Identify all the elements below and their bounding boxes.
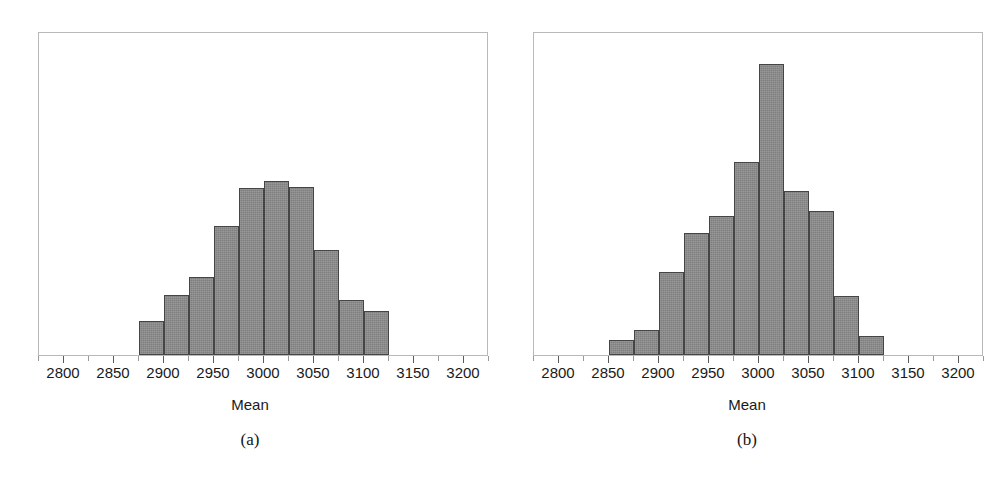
x-axis-tick-major	[708, 356, 709, 363]
histogram-bar	[214, 226, 239, 355]
histogram-bar	[634, 330, 659, 355]
histogram-bar	[289, 187, 314, 355]
x-axis-tick-label: 2850	[96, 364, 129, 381]
bars-container-b	[534, 33, 982, 355]
x-axis-tick-major	[263, 356, 264, 363]
x-axis-tick-major	[908, 356, 909, 363]
histogram-bar	[239, 188, 264, 356]
x-axis-tick-major	[658, 356, 659, 363]
plot-frame-a	[38, 32, 488, 356]
histogram-bar	[784, 191, 809, 355]
x-axis-tick-minor	[833, 356, 834, 361]
x-axis-tick-label: 2900	[146, 364, 179, 381]
x-axis-tick-label: 3150	[396, 364, 429, 381]
x-axis-tick-minor	[633, 356, 634, 361]
x-axis-tick-major	[558, 356, 559, 363]
histogram-bar	[734, 162, 759, 355]
x-axis-tick-minor	[583, 356, 584, 361]
histogram-bar	[189, 277, 214, 355]
x-axis-tick-label: 3100	[841, 364, 874, 381]
x-axis-tick-label: 3200	[941, 364, 974, 381]
x-axis-tick-minor	[388, 356, 389, 361]
x-axis-tick-minor	[933, 356, 934, 361]
x-axis-tick-minor	[983, 356, 984, 361]
x-axis-tick-minor	[88, 356, 89, 361]
x-axis-tick-label: 2900	[641, 364, 674, 381]
subplot-caption-b: (b)	[500, 430, 994, 450]
x-axis-tick-minor	[683, 356, 684, 361]
x-axis-tick-minor	[288, 356, 289, 361]
x-axis-tick-minor	[188, 356, 189, 361]
histogram-bar	[314, 250, 339, 355]
x-axis-tick-major	[163, 356, 164, 363]
x-axis-tick-major	[858, 356, 859, 363]
x-axis-tick-label: 2950	[691, 364, 724, 381]
x-axis-tick-minor	[883, 356, 884, 361]
x-axis-tick-label: 3100	[346, 364, 379, 381]
histogram-bar	[809, 211, 834, 355]
histogram-bar	[834, 296, 859, 355]
x-axis-tick-minor	[783, 356, 784, 361]
x-axis-tick-minor	[438, 356, 439, 361]
x-axis-tick-major	[958, 356, 959, 363]
histogram-bar	[164, 295, 189, 355]
x-axis-tick-label: 3200	[446, 364, 479, 381]
x-axis-tick-minor	[38, 356, 39, 361]
x-axis-tick-label: 3000	[741, 364, 774, 381]
x-axis-tick-major	[463, 356, 464, 363]
x-axis-tick-label: 3000	[246, 364, 279, 381]
x-axis-tick-label: 3050	[791, 364, 824, 381]
x-axis-tick-minor	[338, 356, 339, 361]
histogram-bar	[759, 64, 784, 355]
x-axis-title-a: Mean	[0, 396, 500, 413]
histogram-bar	[139, 321, 164, 355]
histogram-bar	[859, 336, 884, 355]
figure-container: 280028502900295030003050310031503200 Mea…	[0, 0, 994, 482]
plot-frame-b	[533, 32, 983, 356]
x-axis-tick-minor	[533, 356, 534, 361]
x-axis-tick-minor	[138, 356, 139, 361]
histogram-bar	[264, 181, 289, 355]
subplot-caption-a: (a)	[0, 430, 500, 450]
histogram-bar	[609, 340, 634, 355]
x-axis-tick-major	[213, 356, 214, 363]
histogram-bar	[659, 272, 684, 355]
x-axis-tick-major	[63, 356, 64, 363]
histogram-bar	[684, 233, 709, 355]
x-axis-b: 280028502900295030003050310031503200	[533, 356, 983, 357]
x-axis-tick-major	[313, 356, 314, 363]
histogram-bar	[339, 300, 364, 355]
x-axis-tick-major	[758, 356, 759, 363]
x-axis-tick-label: 3050	[296, 364, 329, 381]
bars-container-a	[39, 33, 487, 355]
x-axis-tick-minor	[488, 356, 489, 361]
x-axis-tick-label: 3150	[891, 364, 924, 381]
x-axis-tick-label: 2950	[196, 364, 229, 381]
x-axis-tick-label: 2800	[541, 364, 574, 381]
x-axis-tick-minor	[238, 356, 239, 361]
subplot-panel-b: 280028502900295030003050310031503200 Mea…	[500, 0, 994, 482]
histogram-bar	[364, 311, 389, 355]
x-axis-tick-label: 2850	[591, 364, 624, 381]
x-axis-tick-major	[113, 356, 114, 363]
x-axis-tick-major	[413, 356, 414, 363]
x-axis-tick-major	[363, 356, 364, 363]
x-axis-tick-label: 2800	[46, 364, 79, 381]
x-axis-tick-major	[808, 356, 809, 363]
histogram-bar	[709, 216, 734, 355]
x-axis-title-b: Mean	[500, 396, 994, 413]
subplot-panel-a: 280028502900295030003050310031503200 Mea…	[0, 0, 500, 482]
x-axis-tick-major	[608, 356, 609, 363]
x-axis-a: 280028502900295030003050310031503200	[38, 356, 488, 357]
x-axis-tick-minor	[733, 356, 734, 361]
